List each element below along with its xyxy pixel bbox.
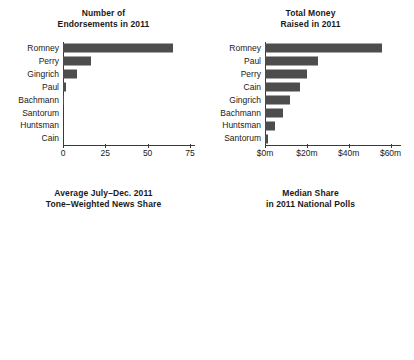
bar <box>265 134 268 143</box>
category-label: Perry <box>241 70 265 79</box>
category-label: Santorum <box>22 109 63 118</box>
chart-title-line-1: Median Share <box>282 188 338 198</box>
bar-row: Romney <box>63 42 195 55</box>
category-label: Huntsman <box>20 121 63 130</box>
category-label: Perry <box>39 57 63 66</box>
category-label: Bachmann <box>18 96 63 105</box>
category-label: Santorum <box>224 134 265 143</box>
chart-panel-money-raised: Total Money Raised in 2011 RomneyPaulPer… <box>207 0 414 180</box>
chart-title-line-2: Tone–Weighted News Share <box>0 199 207 210</box>
category-label: Huntsman <box>222 121 265 130</box>
x-axis-line <box>265 145 401 146</box>
chart-title-line-2: in 2011 National Polls <box>207 199 414 210</box>
chart-title-endorsements: Number of Endorsements in 2011 <box>0 8 207 30</box>
chart-panel-national-polls: Median Share in 2011 National Polls Romn… <box>207 180 414 360</box>
bar <box>265 44 382 53</box>
category-label: Romney <box>27 44 63 53</box>
chart-title-money-raised: Total Money Raised in 2011 <box>207 8 414 30</box>
chart-title-line-1: Number of <box>82 8 125 18</box>
plot-area-endorsements: RomneyPerryGingrichPaulBachmannSantorumH… <box>63 42 195 145</box>
category-label: Romney <box>229 44 265 53</box>
bar <box>63 70 77 79</box>
bar-row: Huntsman <box>63 119 195 132</box>
bar-row: Gingrich <box>265 94 401 107</box>
bar-row: Paul <box>265 55 401 68</box>
bar <box>265 95 290 104</box>
bar-row: Santorum <box>63 106 195 119</box>
bar-row: Perry <box>265 68 401 81</box>
bar-row: Cain <box>63 132 195 145</box>
bar-row: Paul <box>63 81 195 94</box>
x-axis-tick-label: 0 <box>61 149 66 158</box>
x-axis-tick-label: $0m <box>257 149 274 158</box>
bar <box>63 83 66 92</box>
bar-row: Gingrich <box>63 68 195 81</box>
chart-panel-endorsements: Number of Endorsements in 2011 RomneyPer… <box>0 0 207 180</box>
category-label: Cain <box>42 134 63 143</box>
bar-row: Huntsman <box>265 119 401 132</box>
bar <box>63 44 173 53</box>
bar-row: Bachmann <box>63 94 195 107</box>
bar-row: Santorum <box>265 132 401 145</box>
bar-row: Cain <box>265 81 401 94</box>
category-label: Paul <box>244 57 265 66</box>
bar <box>265 121 275 130</box>
chart-title-line-2: Raised in 2011 <box>207 19 414 30</box>
bar-rows: RomneyPaulPerryCainGingrichBachmannHunts… <box>265 42 401 145</box>
bar <box>265 83 300 92</box>
x-axis-tick-label: 75 <box>185 149 194 158</box>
chart-title-line-1: Average July–Dec. 2011 <box>54 188 152 198</box>
bar <box>265 108 283 117</box>
bar <box>63 57 91 66</box>
chart-figure-grid: Number of Endorsements in 2011 RomneyPer… <box>0 0 414 360</box>
x-axis-tick-label: $20m <box>296 149 317 158</box>
x-axis-tick-label: 50 <box>143 149 152 158</box>
bar-row: Bachmann <box>265 106 401 119</box>
chart-title-news-share: Average July–Dec. 2011 Tone–Weighted New… <box>0 188 207 210</box>
category-label: Gingrich <box>229 96 265 105</box>
bar <box>63 95 64 104</box>
bar <box>265 70 307 79</box>
category-label: Bachmann <box>220 109 265 118</box>
bar <box>265 57 318 66</box>
x-axis-tick-label: $40m <box>338 149 359 158</box>
category-label: Gingrich <box>27 70 63 79</box>
category-label: Cain <box>244 83 265 92</box>
category-label: Paul <box>42 83 63 92</box>
bar-row: Perry <box>63 55 195 68</box>
x-axis-tick-label: 25 <box>101 149 110 158</box>
chart-title-line-2: Endorsements in 2011 <box>0 19 207 30</box>
chart-panel-news-share: Average July–Dec. 2011 Tone–Weighted New… <box>0 180 207 360</box>
x-axis-tick-label: $60m <box>380 149 401 158</box>
plot-area-money-raised: RomneyPaulPerryCainGingrichBachmannHunts… <box>265 42 401 145</box>
x-axis-line <box>63 145 195 146</box>
bar-rows: RomneyPerryGingrichPaulBachmannSantorumH… <box>63 42 195 145</box>
bar-row: Romney <box>265 42 401 55</box>
chart-title-national-polls: Median Share in 2011 National Polls <box>207 188 414 210</box>
chart-title-line-1: Total Money <box>285 8 335 18</box>
